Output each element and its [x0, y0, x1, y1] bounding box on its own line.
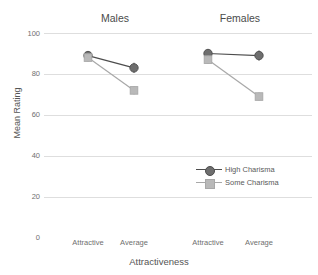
series-line [208, 54, 259, 56]
y-tick-100: 100 [16, 30, 40, 38]
chart-figure: Males Females Mean Rating Attractiveness… [0, 0, 318, 275]
x-tick-females-attractive: Attractive [192, 238, 223, 247]
legend-item-some-charisma[interactable]: Some Charisma [196, 176, 300, 189]
y-tick-40: 40 [16, 152, 40, 160]
y-tick-80: 80 [16, 70, 40, 78]
facet-title-females: Females [185, 12, 295, 24]
series-line [88, 58, 134, 91]
square-marker-icon [205, 179, 215, 189]
series-line [88, 56, 134, 68]
plot-area [44, 28, 312, 236]
x-tick-females-average: Average [245, 238, 273, 247]
facet-title-males: Males [60, 12, 170, 24]
series-line [208, 60, 259, 97]
circle-marker-icon [205, 166, 215, 176]
data-point-square[interactable] [84, 54, 92, 62]
data-point-circle[interactable] [130, 64, 138, 72]
legend-label-some-charisma: Some Charisma [222, 178, 279, 187]
legend-key-some-charisma [196, 176, 222, 189]
y-tick-0: 0 [16, 234, 40, 242]
legend-item-high-charisma[interactable]: High Charisma [196, 163, 300, 176]
legend-key-high-charisma [196, 163, 222, 176]
legend-label-high-charisma: High Charisma [222, 165, 275, 174]
y-tick-20: 20 [16, 193, 40, 201]
x-tick-males-attractive: Attractive [72, 238, 103, 247]
x-axis-title: Attractiveness [0, 256, 318, 267]
data-point-square[interactable] [204, 56, 212, 64]
data-point-square[interactable] [255, 93, 263, 101]
x-tick-males-average: Average [120, 238, 148, 247]
data-point-circle[interactable] [255, 51, 263, 59]
chart-legend: High Charisma Some Charisma [196, 163, 300, 189]
y-tick-60: 60 [16, 111, 40, 119]
data-point-square[interactable] [130, 87, 138, 95]
data-series-layer [44, 28, 312, 236]
